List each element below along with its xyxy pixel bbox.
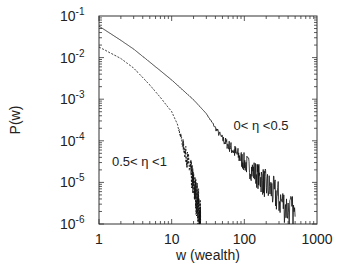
y-tick-label: 10-5 xyxy=(60,172,85,190)
x-tick-label: 1000 xyxy=(301,231,332,247)
wealth-distribution-chart: 110100100010-110-210-310-410-510-6 w (we… xyxy=(0,0,341,274)
x-tick-label: 100 xyxy=(233,231,257,247)
y-tick-label: 10-6 xyxy=(60,214,85,232)
y-tick-label: 10-3 xyxy=(60,89,85,107)
y-axis-label: P(w) xyxy=(7,106,23,135)
y-tick-label: 10-4 xyxy=(60,131,85,149)
series-line-2 xyxy=(99,47,201,224)
x-tick-label: 1 xyxy=(95,231,103,247)
x-tick-label: 10 xyxy=(164,231,180,247)
x-axis-label: w (wealth) xyxy=(175,247,240,263)
y-tick-label: 10-1 xyxy=(60,6,85,24)
annotation-series-2: 0.5< η <1 xyxy=(112,154,167,169)
annotation-series-1: 0< η <0.5 xyxy=(234,118,289,133)
y-tick-label: 10-2 xyxy=(60,48,85,66)
